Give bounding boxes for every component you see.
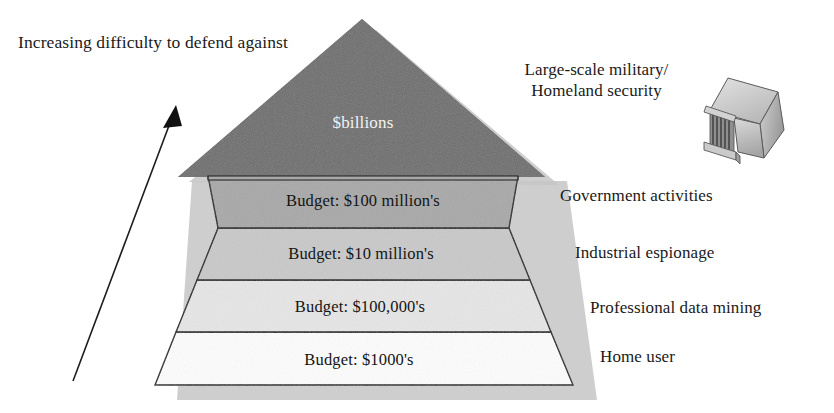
- increasing-difficulty-caption: Increasing difficulty to defend against: [18, 32, 268, 53]
- pyramid-level-0-base-seam: [208, 176, 518, 180]
- pyramid-level-4-budget-label: Budget: $1000's: [160, 350, 558, 370]
- actor-label-line-2: Homeland security: [531, 81, 662, 100]
- actor-label-line-1: Large-scale military/: [525, 60, 669, 79]
- arrow-shaft: [73, 123, 170, 381]
- actor-label-home-user: Home user: [600, 347, 675, 368]
- actor-label-professional-data-mining: Professional data mining: [590, 298, 761, 319]
- government-building-icon: [704, 78, 784, 164]
- figure-canvas: Increasing difficulty to defend against …: [0, 0, 834, 413]
- arrow-head: [163, 105, 182, 128]
- increasing-difficulty-arrow: [73, 105, 182, 381]
- actor-label-industrial-espionage: Industrial espionage: [575, 243, 714, 264]
- actor-label-government-activities: Government activities: [560, 186, 713, 207]
- pyramid-level-3-budget-label: Budget: $100,000's: [168, 297, 552, 317]
- actor-label-large-scale-military: Large-scale military/Homeland security: [489, 60, 704, 101]
- pyramid-level-1-budget-label: Budget: $100 million's: [183, 191, 543, 211]
- pyramid-level-0-budget-label: $billions: [183, 113, 543, 133]
- pyramid-level-2-budget-label: Budget: $10 million's: [176, 244, 546, 264]
